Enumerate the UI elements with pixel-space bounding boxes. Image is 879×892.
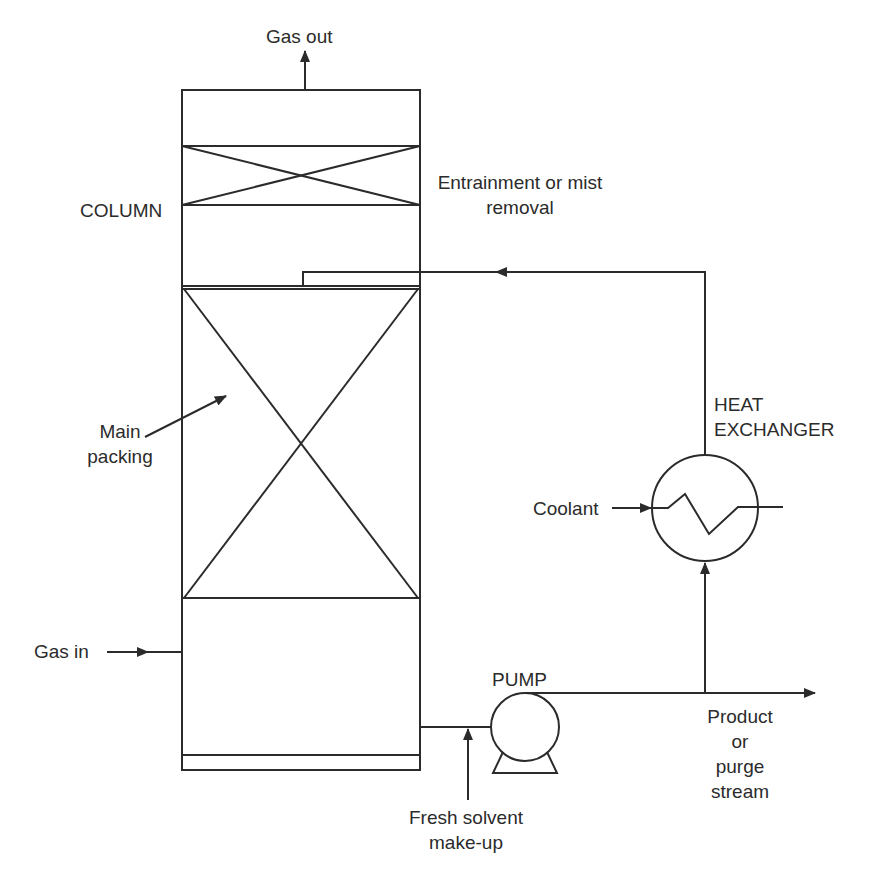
heat-exchanger-symbol xyxy=(652,455,783,561)
gas-in-label: Gas in xyxy=(34,639,89,664)
heat-exchanger-label-line2: EXCHANGER xyxy=(714,417,834,442)
fresh-solvent-label-line1: Fresh solvent xyxy=(396,805,536,830)
main-packing-label: Main packing xyxy=(80,419,160,469)
product-label-line2: or xyxy=(700,729,780,754)
product-label-line3: purge xyxy=(700,754,780,779)
product-purge-label: Product or purge stream xyxy=(700,704,780,804)
column-label: COLUMN xyxy=(80,198,162,223)
heat-exchanger-label: HEAT EXCHANGER xyxy=(714,392,834,442)
column-shell xyxy=(182,90,420,770)
coolant-label: Coolant xyxy=(533,496,599,521)
fresh-solvent-label-line2: make-up xyxy=(396,830,536,855)
mist-removal-label: Entrainment or mist removal xyxy=(427,170,613,220)
pump-label: PUMP xyxy=(492,667,547,692)
product-label-line4: stream xyxy=(700,779,780,804)
main-packing-bed xyxy=(182,286,420,598)
main-packing-label-line2: packing xyxy=(80,444,160,469)
main-packing-label-line1: Main xyxy=(80,419,160,444)
gas-out-label: Gas out xyxy=(266,24,333,49)
product-label-line1: Product xyxy=(700,704,780,729)
recycle-return-line xyxy=(303,272,705,455)
pump-symbol xyxy=(491,693,559,773)
mist-eliminator xyxy=(182,146,420,205)
mist-removal-label-line2: removal xyxy=(427,195,613,220)
fresh-solvent-label: Fresh solvent make-up xyxy=(396,805,536,855)
heat-exchanger-label-line1: HEAT xyxy=(714,392,834,417)
mist-removal-label-line1: Entrainment or mist xyxy=(427,170,613,195)
